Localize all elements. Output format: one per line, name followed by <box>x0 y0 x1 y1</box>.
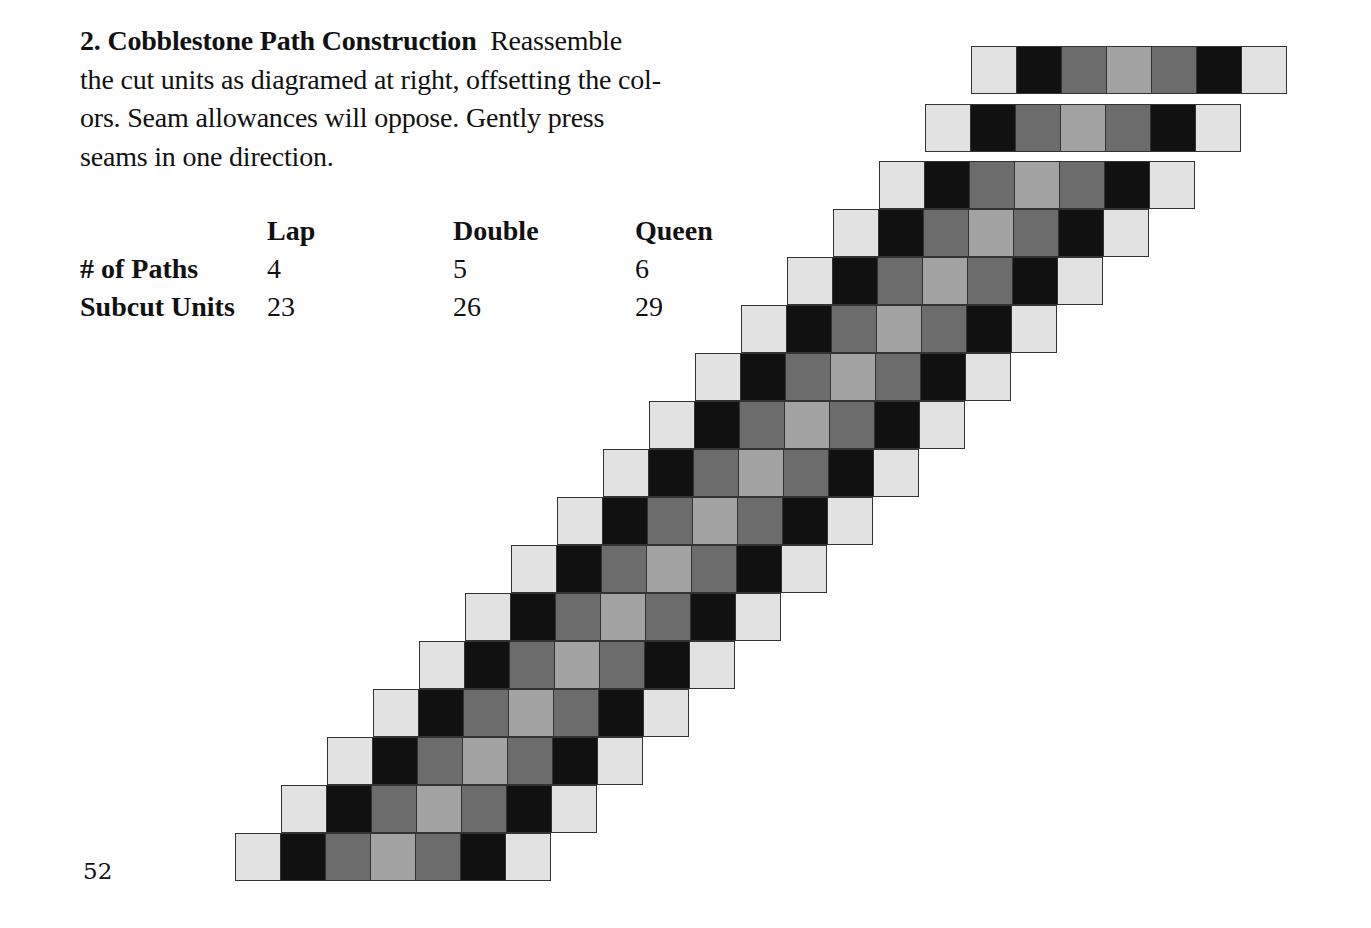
fabric-square-medium <box>415 833 461 881</box>
fabric-square-medium <box>417 737 463 785</box>
separated-unit-strip <box>971 46 1287 94</box>
fabric-square-medium <box>969 161 1015 209</box>
fabric-square-dark <box>418 689 464 737</box>
fabric-square-dark <box>828 449 874 497</box>
fabric-square-medium-light <box>922 257 968 305</box>
fabric-square-dark <box>740 353 786 401</box>
units-lap: 23 <box>267 288 295 326</box>
column-header-queen: Queen <box>635 212 713 250</box>
fabric-square-light <box>873 449 919 497</box>
fabric-square-medium-light <box>462 737 508 785</box>
joined-unit-strip <box>511 545 827 593</box>
fabric-square-dark <box>326 785 372 833</box>
joined-unit-strip <box>281 785 597 833</box>
fabric-square-medium <box>783 449 829 497</box>
fabric-square-light <box>327 737 373 785</box>
fabric-square-medium-light <box>646 545 692 593</box>
fabric-square-medium <box>461 785 507 833</box>
joined-unit-strip <box>235 833 551 881</box>
fabric-square-medium <box>739 401 785 449</box>
fabric-square-dark <box>648 449 694 497</box>
fabric-square-dark <box>1150 104 1196 152</box>
fabric-square-dark <box>874 401 920 449</box>
fabric-square-medium-light <box>738 449 784 497</box>
fabric-square-medium <box>553 689 599 737</box>
fabric-square-dark <box>1016 46 1062 94</box>
fabric-square-medium-light <box>508 689 554 737</box>
fabric-square-dark <box>1196 46 1242 94</box>
fabric-square-light <box>465 593 511 641</box>
fabric-square-dark <box>786 305 832 353</box>
fabric-square-medium <box>737 497 783 545</box>
fabric-square-light <box>833 209 879 257</box>
fabric-square-medium <box>691 545 737 593</box>
fabric-square-dark <box>694 401 740 449</box>
fabric-square-medium <box>601 545 647 593</box>
fabric-square-dark <box>598 689 644 737</box>
fabric-square-light <box>603 449 649 497</box>
fabric-square-light <box>1241 46 1287 94</box>
joined-unit-strip <box>787 257 1103 305</box>
fabric-square-medium <box>877 257 923 305</box>
fabric-square-light <box>735 593 781 641</box>
fabric-square-dark <box>924 161 970 209</box>
fabric-square-dark <box>878 209 924 257</box>
fabric-square-dark <box>1012 257 1058 305</box>
page-number: 52 <box>83 858 112 884</box>
row-label-paths: # of Paths <box>80 250 198 288</box>
fabric-square-dark <box>280 833 326 881</box>
fabric-square-medium <box>371 785 417 833</box>
column-header-lap: Lap <box>267 212 315 250</box>
fabric-square-medium <box>923 209 969 257</box>
fabric-square-dark <box>556 545 602 593</box>
fabric-square-medium-light <box>830 353 876 401</box>
instruction-paragraph: 2. Cobblestone Path Construction Reassem… <box>80 22 740 176</box>
units-queen: 29 <box>635 288 663 326</box>
fabric-square-dark <box>690 593 736 641</box>
joined-unit-strip <box>879 161 1195 209</box>
fabric-square-dark <box>782 497 828 545</box>
joined-unit-strip <box>327 737 643 785</box>
fabric-square-dark <box>1104 161 1150 209</box>
fabric-square-light <box>1103 209 1149 257</box>
fabric-square-medium <box>645 593 691 641</box>
fabric-square-light <box>281 785 327 833</box>
joined-unit-strip <box>603 449 919 497</box>
fabric-square-dark <box>644 641 690 689</box>
fabric-square-dark <box>506 785 552 833</box>
fabric-square-medium <box>1151 46 1197 94</box>
fabric-square-light <box>551 785 597 833</box>
fabric-square-medium-light <box>692 497 738 545</box>
fabric-square-light <box>1011 305 1057 353</box>
paths-double: 5 <box>453 250 467 288</box>
fabric-square-medium <box>921 305 967 353</box>
fabric-square-dark <box>372 737 418 785</box>
fabric-square-light <box>689 641 735 689</box>
fabric-square-medium-light <box>784 401 830 449</box>
fabric-square-light <box>557 497 603 545</box>
fabric-square-medium <box>507 737 553 785</box>
fabric-square-medium <box>1105 104 1151 152</box>
fabric-square-medium <box>693 449 739 497</box>
joined-unit-strip <box>649 401 965 449</box>
fabric-square-medium <box>325 833 371 881</box>
joined-unit-strip <box>557 497 873 545</box>
fabric-square-light <box>597 737 643 785</box>
fabric-square-dark <box>552 737 598 785</box>
fabric-square-light <box>649 401 695 449</box>
fabric-square-light <box>781 545 827 593</box>
fabric-square-medium <box>1061 46 1107 94</box>
fabric-square-medium <box>831 305 877 353</box>
paragraph-line-1: Reassemble <box>490 25 622 56</box>
separated-unit-strip <box>925 104 1241 152</box>
fabric-square-light <box>1057 257 1103 305</box>
units-double: 26 <box>453 288 481 326</box>
fabric-square-light <box>695 353 741 401</box>
fabric-square-light <box>741 305 787 353</box>
fabric-square-light <box>925 104 971 152</box>
fabric-square-light <box>919 401 965 449</box>
fabric-square-light <box>643 689 689 737</box>
paragraph-line-2: the cut units as diagramed at right, off… <box>80 64 661 95</box>
fabric-square-medium-light <box>1014 161 1060 209</box>
fabric-square-medium-light <box>1106 46 1152 94</box>
